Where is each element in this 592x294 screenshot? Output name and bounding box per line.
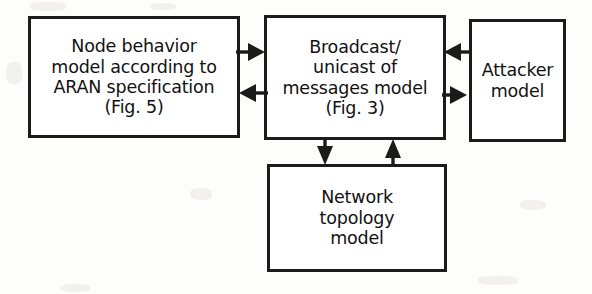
- node-label-broadcast-unicast-messages-model: Broadcast/ unicast of messages model (Fi…: [282, 37, 427, 119]
- scan-artifact: [190, 188, 212, 200]
- arrow-attacker-to-broadcast: [444, 43, 470, 61]
- node-label-node-behavior-model: Node behavior model according to ARAN sp…: [51, 36, 216, 118]
- node-box-network-topology-model[interactable]: Network topology model: [267, 164, 447, 272]
- node-label-network-topology-model: Network topology model: [320, 187, 395, 248]
- scan-artifact: [150, 3, 176, 10]
- scan-artifact: [520, 200, 546, 210]
- arrow-network-topology-to-broadcast: [385, 139, 401, 164]
- arrow-node-behavior-to-broadcast: [236, 43, 265, 61]
- scan-artifact: [30, 2, 66, 11]
- node-box-node-behavior-model[interactable]: Node behavior model according to ARAN sp…: [28, 16, 240, 138]
- node-box-attacker-model[interactable]: Attacker model: [469, 19, 566, 142]
- arrow-broadcast-to-network-topology: [317, 139, 333, 165]
- node-label-attacker-model: Attacker model: [482, 60, 554, 101]
- scan-artifact: [6, 62, 22, 84]
- scan-artifact: [60, 284, 90, 292]
- scan-artifact: [478, 276, 518, 285]
- node-box-broadcast-unicast-messages-model[interactable]: Broadcast/ unicast of messages model (Fi…: [264, 15, 446, 140]
- diagram-canvas: Node behavior model according to ARAN sp…: [0, 0, 592, 294]
